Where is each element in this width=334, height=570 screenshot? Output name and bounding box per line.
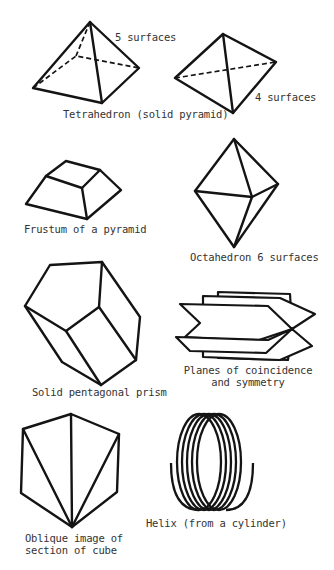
frustum-caption: Frustum of a pyramid bbox=[24, 223, 146, 235]
pyramid-surfaces-label: 5 surfaces bbox=[115, 31, 176, 43]
helix-figure bbox=[171, 414, 253, 510]
geometric-solids-diagram bbox=[0, 0, 334, 570]
pentagonal-prism-figure bbox=[25, 262, 140, 385]
cube-caption-line2: section of cube bbox=[25, 544, 123, 556]
octahedron-caption: Octahedron 6 surfaces bbox=[190, 251, 319, 263]
planes-caption: Planes of coincidence and symmetry bbox=[183, 364, 313, 388]
tetrahedron-caption: Tetrahedron (solid pyramid) bbox=[63, 108, 228, 120]
planes-caption-line1: Planes of coincidence bbox=[183, 364, 313, 376]
planes-of-symmetry-figure bbox=[176, 292, 315, 360]
frustum-figure bbox=[26, 161, 121, 219]
tetrahedron-surfaces-label: 4 surfaces bbox=[255, 91, 316, 103]
cube-section-figure bbox=[21, 414, 119, 527]
helix-caption: Helix (from a cylinder) bbox=[146, 517, 287, 529]
cube-caption-line1: Oblique image of bbox=[25, 532, 123, 544]
planes-caption-line2: and symmetry bbox=[183, 376, 313, 388]
octahedron-figure bbox=[195, 139, 278, 247]
prism-caption: Solid pentagonal prism bbox=[32, 386, 167, 398]
cube-section-caption: Oblique image of section of cube bbox=[25, 532, 123, 556]
